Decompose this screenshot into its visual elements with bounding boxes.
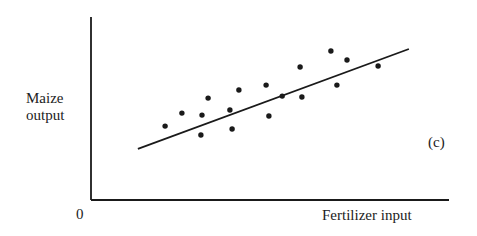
data-point [205,95,210,100]
data-point [236,87,241,92]
y-axis-label: Maize output [26,90,64,124]
data-point [229,126,234,131]
data-point [280,93,285,98]
data-points [162,48,380,137]
data-point [297,64,302,69]
data-point [299,94,304,99]
data-point [266,113,271,118]
data-point [198,132,203,137]
data-point [162,123,167,128]
data-point [227,107,232,112]
data-point [199,112,204,117]
data-point [375,63,380,68]
x-axis-label: Fertilizer input [322,207,412,224]
data-point [179,110,184,115]
y-axis-label-line-1: Maize [26,90,64,107]
regression-line [138,49,409,149]
panel-label: (c) [428,134,445,151]
axes [91,17,449,200]
data-point [344,57,349,62]
scatter-chart [0,0,477,236]
origin-label: 0 [76,206,84,223]
data-point [328,48,333,53]
y-axis-label-line-2: output [26,107,64,124]
data-point [263,82,268,87]
data-point [334,82,339,87]
fitted-trend-line [138,49,409,149]
